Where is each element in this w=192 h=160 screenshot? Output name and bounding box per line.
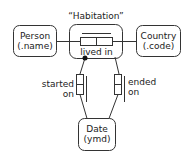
date-refmode: (ymd) — [78, 134, 116, 144]
date-name: Date — [78, 124, 116, 134]
started-text: started — [40, 79, 74, 89]
country-label: Country (.code) — [136, 31, 181, 51]
role-box-started-1 — [77, 75, 84, 85]
person-refmode: (.name) — [13, 41, 57, 51]
person-label: Person (.name) — [13, 31, 57, 51]
diagram-title: “Habitation” — [60, 11, 132, 21]
relation-label: lived in — [70, 47, 123, 57]
role-box-country — [97, 38, 113, 46]
person-name: Person — [13, 31, 57, 41]
ended-on-label: ended on — [128, 77, 168, 97]
country-refmode: (.code) — [136, 41, 181, 51]
ended-text: ended — [128, 77, 168, 87]
role-box-ended-1 — [115, 75, 122, 85]
started-on-label: started on — [40, 79, 74, 99]
date-label: Date (ymd) — [78, 124, 116, 144]
country-name: Country — [136, 31, 181, 41]
started-on-text: on — [40, 89, 74, 99]
role-box-person — [81, 38, 97, 46]
ended-on-text: on — [128, 87, 168, 97]
role-box-started-2 — [77, 85, 84, 95]
role-box-ended-2 — [115, 85, 122, 95]
